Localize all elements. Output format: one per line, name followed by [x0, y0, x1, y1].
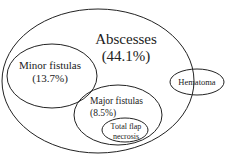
- major-fistulas-label: Major fistulas: [90, 96, 143, 106]
- total-flap-necrosis-label-line1: Total flap: [111, 122, 142, 131]
- major-fistulas-value: (8.5%): [90, 108, 116, 119]
- complications-venn-diagram: Abscesses (44.1%) Minor fistulas (13.7%)…: [0, 0, 230, 161]
- abscesses-value: (44.1%): [102, 48, 151, 65]
- hematoma-label: Hematoma: [178, 77, 216, 87]
- minor-fistulas-value: (13.7%): [32, 72, 68, 85]
- total-flap-necrosis-label-line2: necrosis: [113, 132, 139, 141]
- minor-fistulas-label: Minor fistulas: [19, 59, 81, 71]
- abscesses-label: Abscesses: [95, 31, 157, 47]
